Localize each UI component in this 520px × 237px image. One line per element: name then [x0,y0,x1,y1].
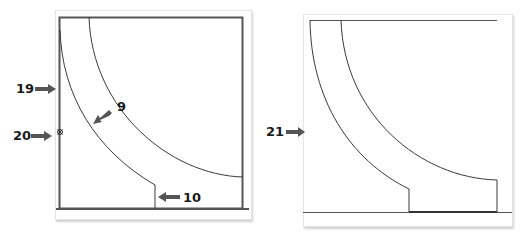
arrow-19-icon [35,84,56,94]
inner-arc-right [310,20,409,212]
arrow-21-icon [286,127,305,137]
left-panel [31,17,249,209]
callout-19: 19 [16,82,34,96]
outer-arc [89,17,243,177]
diagram-canvas [0,0,520,237]
callout-21: 21 [266,125,284,139]
right-panel [286,20,512,213]
arrow-9-icon [93,110,112,124]
arrow-20-icon [31,131,52,141]
callout-20: 20 [13,129,31,143]
arrow-10-icon [158,192,180,202]
callout-9: 9 [117,100,126,114]
outer-arc-right [341,20,497,212]
inner-arc [60,30,155,209]
vessel-walls [60,18,243,209]
callout-10: 10 [183,191,201,205]
